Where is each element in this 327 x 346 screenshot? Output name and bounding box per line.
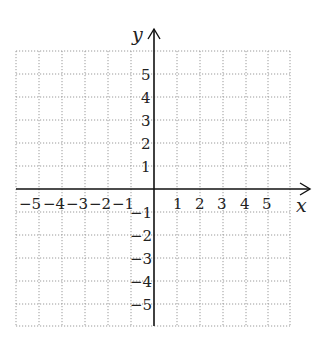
y-tick-neg4: −4 (130, 273, 152, 291)
y-tick-labels: 5 4 3 2 1 −1 −2 −3 −4 −5 (130, 66, 152, 314)
x-tick-neg2: −2 (89, 195, 111, 213)
x-tick-1: 1 (173, 195, 183, 213)
y-tick-3: 3 (141, 112, 151, 130)
x-axis (16, 183, 310, 195)
x-tick-neg5: −5 (19, 195, 41, 213)
x-axis-label: x (296, 194, 307, 216)
x-tick-5: 5 (262, 195, 272, 213)
x-tick-neg3: −3 (66, 195, 88, 213)
y-tick-neg1: −1 (130, 204, 152, 222)
x-tick-2: 2 (195, 195, 205, 213)
y-tick-neg2: −2 (130, 227, 152, 245)
y-axis-label: y (131, 23, 143, 45)
x-tick-4: 4 (240, 195, 250, 213)
y-tick-2: 2 (141, 135, 151, 153)
coordinate-plane: x y −5 −4 −3 −2 −1 1 2 3 4 5 5 4 3 2 1 −… (0, 0, 327, 346)
y-tick-4: 4 (141, 89, 151, 107)
y-tick-1: 1 (141, 158, 151, 176)
x-tick-neg4: −4 (43, 195, 65, 213)
y-tick-neg3: −3 (130, 250, 152, 268)
x-tick-3: 3 (217, 195, 227, 213)
y-tick-neg5: −5 (130, 296, 152, 314)
y-tick-5: 5 (141, 66, 151, 84)
